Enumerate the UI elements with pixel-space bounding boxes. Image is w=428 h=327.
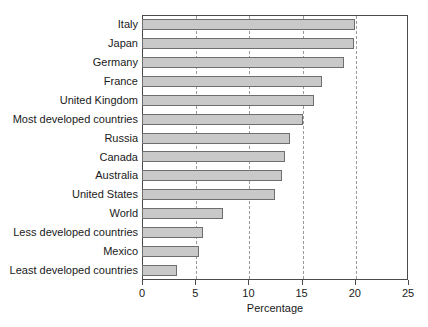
- bar[interactable]: [142, 227, 203, 238]
- bar[interactable]: [142, 114, 303, 125]
- x-tick-label: 0: [139, 287, 145, 299]
- x-tick-label: 10: [242, 287, 254, 299]
- category-label: Canada: [99, 148, 138, 167]
- bars-group: [142, 15, 408, 280]
- x-tick-mark: [248, 280, 249, 285]
- bar[interactable]: [142, 208, 223, 219]
- x-tick-mark: [408, 280, 409, 285]
- bar-row[interactable]: [142, 91, 408, 110]
- bar[interactable]: [142, 38, 354, 49]
- category-axis-labels: ItalyJapanGermanyFranceUnited KingdomMos…: [0, 15, 138, 280]
- category-label: Germany: [93, 53, 138, 72]
- category-label: Mexico: [103, 242, 138, 261]
- bar-row[interactable]: [142, 148, 408, 167]
- category-label: Russia: [104, 129, 138, 148]
- category-label: World: [109, 204, 138, 223]
- category-label: United States: [72, 185, 138, 204]
- bar[interactable]: [142, 170, 282, 181]
- category-label: Most developed countries: [13, 110, 138, 129]
- bar-row[interactable]: [142, 34, 408, 53]
- bar[interactable]: [142, 76, 322, 87]
- value-axis-ticks: 0510152025: [142, 280, 408, 304]
- x-tick-label: 5: [192, 287, 198, 299]
- x-tick-mark: [195, 280, 196, 285]
- bar-row[interactable]: [142, 242, 408, 261]
- bar[interactable]: [142, 19, 355, 30]
- category-label: Least developed countries: [10, 261, 138, 280]
- x-tick-mark: [142, 280, 143, 285]
- bar-row[interactable]: [142, 204, 408, 223]
- category-label: France: [104, 72, 138, 91]
- bar[interactable]: [142, 151, 285, 162]
- bar-row[interactable]: [142, 72, 408, 91]
- bar-row[interactable]: [142, 185, 408, 204]
- bar[interactable]: [142, 57, 344, 68]
- bar-row[interactable]: [142, 110, 408, 129]
- x-tick-label: 20: [349, 287, 361, 299]
- x-tick-mark: [355, 280, 356, 285]
- bar-row[interactable]: [142, 166, 408, 185]
- bar-row[interactable]: [142, 261, 408, 280]
- category-label: Italy: [118, 15, 138, 34]
- bar[interactable]: [142, 189, 275, 200]
- category-label: Australia: [95, 166, 138, 185]
- bar-row[interactable]: [142, 129, 408, 148]
- bar-row[interactable]: [142, 223, 408, 242]
- x-tick-mark: [302, 280, 303, 285]
- bar[interactable]: [142, 265, 177, 276]
- x-axis-title: Percentage: [142, 302, 408, 314]
- category-label: United Kingdom: [60, 91, 138, 110]
- category-label: Japan: [108, 34, 138, 53]
- x-tick-label: 25: [402, 287, 414, 299]
- x-tick-label: 15: [295, 287, 307, 299]
- bar-row[interactable]: [142, 15, 408, 34]
- bar[interactable]: [142, 246, 199, 257]
- bar[interactable]: [142, 133, 290, 144]
- bar[interactable]: [142, 95, 314, 106]
- bar-chart: ItalyJapanGermanyFranceUnited KingdomMos…: [0, 0, 428, 327]
- bar-row[interactable]: [142, 53, 408, 72]
- category-label: Less developed countries: [13, 223, 138, 242]
